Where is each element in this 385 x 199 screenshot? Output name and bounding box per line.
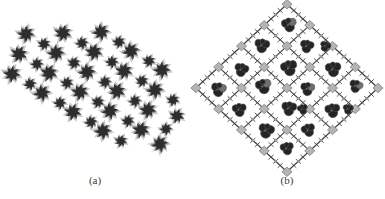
panel-a-label: (a) — [55, 173, 135, 187]
panel-b-structure — [191, 0, 383, 176]
structure-canvas — [0, 0, 385, 199]
panel-a-structure — [0, 20, 186, 156]
panel-b-label: (b) — [247, 173, 327, 187]
figure: (a) (b) — [0, 0, 385, 199]
